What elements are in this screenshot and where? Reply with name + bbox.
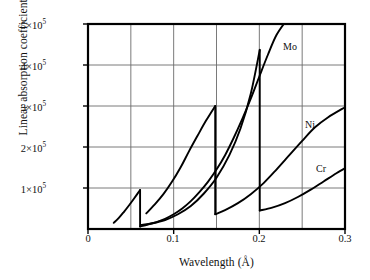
data-curves [114,20,345,227]
axis-ticks [83,24,345,234]
plot-area [0,0,370,280]
curve-mo [114,20,287,227]
gridlines [88,24,345,229]
curve-cr [141,50,345,225]
absorption-coefficient-chart: Linear absorption coefficient (m−1) Wave… [0,0,370,280]
curve-ni [146,106,345,214]
